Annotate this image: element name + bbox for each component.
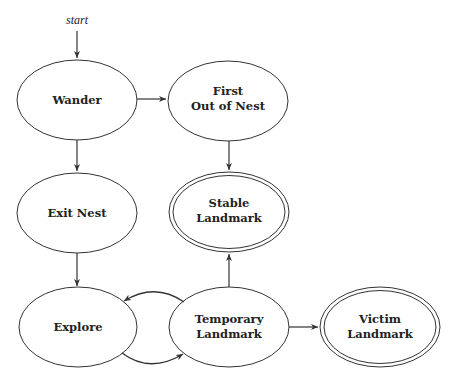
start-label: start bbox=[66, 13, 89, 27]
state-label: Landmark bbox=[347, 327, 414, 341]
state-label: Exit Nest bbox=[48, 206, 108, 220]
state-exit-nest[interactable]: Exit Nest bbox=[17, 173, 137, 253]
state-stable-landmark[interactable]: Stable Landmark bbox=[169, 172, 289, 252]
state-label: Victim bbox=[358, 312, 401, 326]
state-label: First bbox=[213, 84, 244, 98]
state-label: Landmark bbox=[196, 327, 263, 341]
state-victim-landmark[interactable]: Victim Landmark bbox=[320, 287, 440, 367]
state-label: Wander bbox=[51, 93, 102, 107]
state-label: Landmark bbox=[196, 211, 263, 225]
state-explore[interactable]: Explore bbox=[19, 287, 137, 367]
state-diagram: start Wander First Out of Nest Exit Nest… bbox=[0, 0, 457, 383]
transition-temporary-explore bbox=[124, 292, 184, 302]
state-temporary-landmark[interactable]: Temporary Landmark bbox=[169, 287, 289, 367]
state-wander[interactable]: Wander bbox=[17, 60, 137, 140]
state-label: Out of Nest bbox=[191, 99, 266, 113]
state-label: Temporary bbox=[195, 312, 264, 326]
state-first-out-of-nest[interactable]: First Out of Nest bbox=[168, 61, 288, 141]
transition-explore-temporary bbox=[122, 353, 183, 364]
state-label: Explore bbox=[53, 320, 102, 334]
state-label: Stable bbox=[209, 196, 250, 210]
